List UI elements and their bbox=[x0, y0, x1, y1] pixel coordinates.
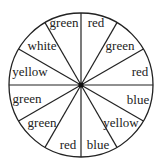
sector-label-11: green bbox=[50, 15, 79, 30]
sector-label-3: blue bbox=[127, 92, 150, 107]
sector-label-7: green bbox=[28, 115, 57, 130]
sector-label-0: red bbox=[88, 15, 105, 30]
sector-label-8: green bbox=[13, 91, 42, 106]
sector-label-1: green bbox=[106, 38, 135, 53]
sector-label-6: red bbox=[60, 137, 77, 152]
sector-label-2: red bbox=[132, 64, 149, 79]
spinner-wheel: red green red blue yellow blue red green… bbox=[0, 0, 160, 167]
sector-label-5: blue bbox=[87, 137, 110, 152]
sector-label-4: yellow bbox=[103, 115, 139, 130]
center-hub bbox=[78, 82, 83, 87]
sector-label-9: yellow bbox=[12, 64, 48, 79]
sector-label-10: white bbox=[28, 38, 57, 53]
